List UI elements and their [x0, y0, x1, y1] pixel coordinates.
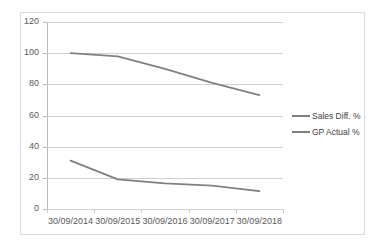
legend-item-gp-actual[interactable]: GP Actual %	[292, 124, 362, 140]
y-axis-tick-mark	[43, 116, 47, 117]
y-axis-tick-mark	[43, 84, 47, 85]
y-axis-tick-label: 20	[9, 173, 39, 182]
y-axis-tick-mark	[43, 53, 47, 54]
gridline	[47, 53, 283, 54]
legend-swatch-sales-diff	[292, 115, 310, 117]
gridline	[47, 178, 283, 179]
x-axis-tick-mark	[47, 209, 48, 213]
y-axis-tick-label: 100	[9, 48, 39, 57]
y-axis-tick-label: 60	[9, 111, 39, 120]
x-axis-tick-mark	[236, 209, 237, 213]
x-axis-tick-mark	[283, 209, 284, 213]
x-axis-tick-mark	[141, 209, 142, 213]
y-axis-tick-mark	[43, 22, 47, 23]
gridline	[47, 22, 283, 23]
y-axis-tick-label: 80	[9, 79, 39, 88]
legend-label-sales-diff: Sales Diff. %	[312, 111, 361, 121]
gridline	[47, 209, 283, 210]
legend-swatch-gp-actual	[292, 131, 310, 133]
y-axis-tick-mark	[43, 147, 47, 148]
y-axis-tick-label: 40	[9, 142, 39, 151]
legend-item-sales-diff[interactable]: Sales Diff. %	[292, 108, 362, 124]
legend-label-gp-actual: GP Actual %	[312, 127, 360, 137]
y-axis-tick-mark	[43, 178, 47, 179]
x-axis-tick-mark	[189, 209, 190, 213]
gridline	[47, 84, 283, 85]
gridline	[47, 116, 283, 117]
x-axis-tick-label: 30/09/2018	[229, 216, 289, 226]
x-axis-tick-mark	[94, 209, 95, 213]
y-axis-tick-label: 120	[9, 17, 39, 26]
gridline	[47, 147, 283, 148]
chart-legend: Sales Diff. % GP Actual %	[292, 108, 362, 140]
y-axis-tick-label: 0	[9, 204, 39, 213]
